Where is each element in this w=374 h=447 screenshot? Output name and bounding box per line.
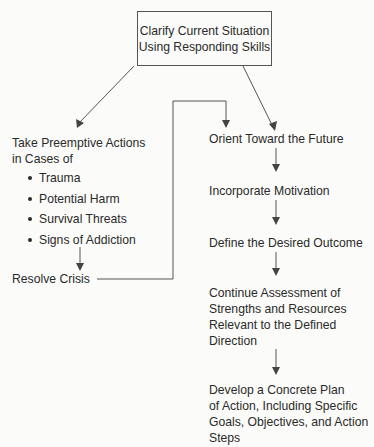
preemptive-heading-1: Take Preemptive Actions <box>12 135 145 152</box>
preemptive-heading-2: in Cases of <box>12 151 73 168</box>
step-plan-4: Steps <box>209 430 240 447</box>
list-item: Signs of Addiction <box>28 232 136 253</box>
arrow-to-preemptive <box>80 66 134 122</box>
resolve-crisis-label: Resolve Crisis <box>12 271 90 288</box>
list-item: Trauma <box>28 170 136 191</box>
preemptive-list: Trauma Potential Harm Survival Threats S… <box>28 170 136 252</box>
clarify-situation-box: Clarify Current Situation Using Respondi… <box>137 11 272 66</box>
step-orient: Orient Toward the Future <box>209 131 344 148</box>
box-line-2: Using Responding Skills <box>139 39 270 55</box>
step-assessment-2: Strengths and Resources <box>209 301 347 318</box>
step-assessment-4: Direction <box>209 333 257 350</box>
step-assessment-1: Continue Assessment of <box>209 285 340 302</box>
step-assessment-3: Relevant to the Defined <box>209 317 336 334</box>
list-item: Potential Harm <box>28 191 136 212</box>
box-line-1: Clarify Current Situation <box>140 23 269 39</box>
step-plan-1: Develop a Concrete Plan <box>209 382 345 399</box>
step-plan-3: Goals, Objectives, and Action <box>209 414 368 431</box>
list-item: Survival Threats <box>28 211 136 232</box>
step-plan-2: of Action, Including Specific <box>209 398 357 415</box>
arrow-to-orient <box>243 66 273 127</box>
step-motivation: Incorporate Motivation <box>209 183 330 200</box>
step-outcome: Define the Desired Outcome <box>209 235 363 252</box>
